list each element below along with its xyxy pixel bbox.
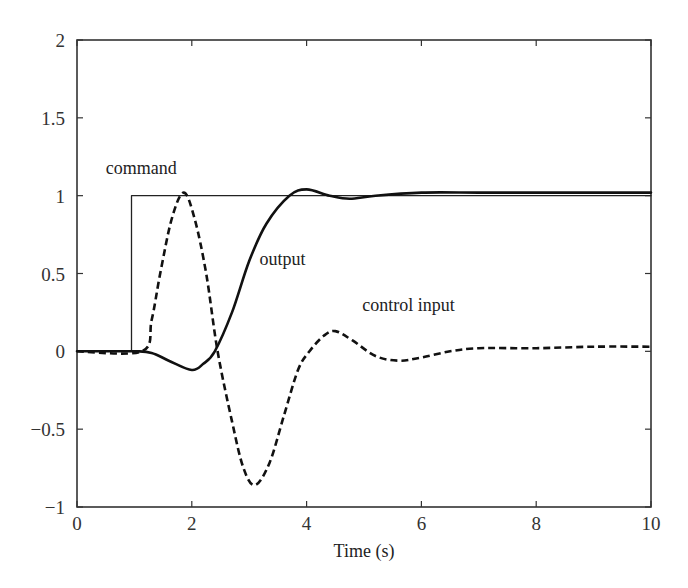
y-tick-label: 1 — [56, 186, 66, 207]
annotation-output-label: output — [260, 249, 306, 269]
y-tick-label: 1.5 — [41, 108, 65, 129]
plot-frame — [77, 40, 651, 507]
plot-border — [77, 40, 651, 507]
annotations: commandoutputcontrol input — [106, 158, 455, 315]
series-layer — [77, 189, 651, 485]
axis-ticks — [77, 40, 651, 507]
series-command — [77, 196, 651, 352]
annotation-control-input-label: control input — [362, 295, 455, 315]
x-tick-label: 4 — [302, 513, 312, 534]
series-control-input — [77, 193, 651, 486]
x-tick-label: 2 — [187, 513, 197, 534]
x-axis-title: Time (s) — [334, 541, 395, 562]
annotation-command-label: command — [106, 158, 177, 178]
x-tick-label: 10 — [642, 513, 661, 534]
x-tick-label: 8 — [531, 513, 541, 534]
chart: 0246810−1−0.500.511.52 commandoutputcont… — [0, 0, 688, 588]
axis-tick-labels: 0246810−1−0.500.511.52 — [31, 30, 661, 534]
y-tick-label: −1 — [45, 497, 65, 518]
x-tick-label: 6 — [417, 513, 427, 534]
series-output — [77, 189, 651, 370]
y-tick-label: −0.5 — [31, 419, 65, 440]
y-tick-label: 2 — [56, 30, 66, 51]
y-tick-label: 0 — [56, 341, 66, 362]
x-tick-label: 0 — [72, 513, 82, 534]
y-tick-label: 0.5 — [41, 264, 65, 285]
